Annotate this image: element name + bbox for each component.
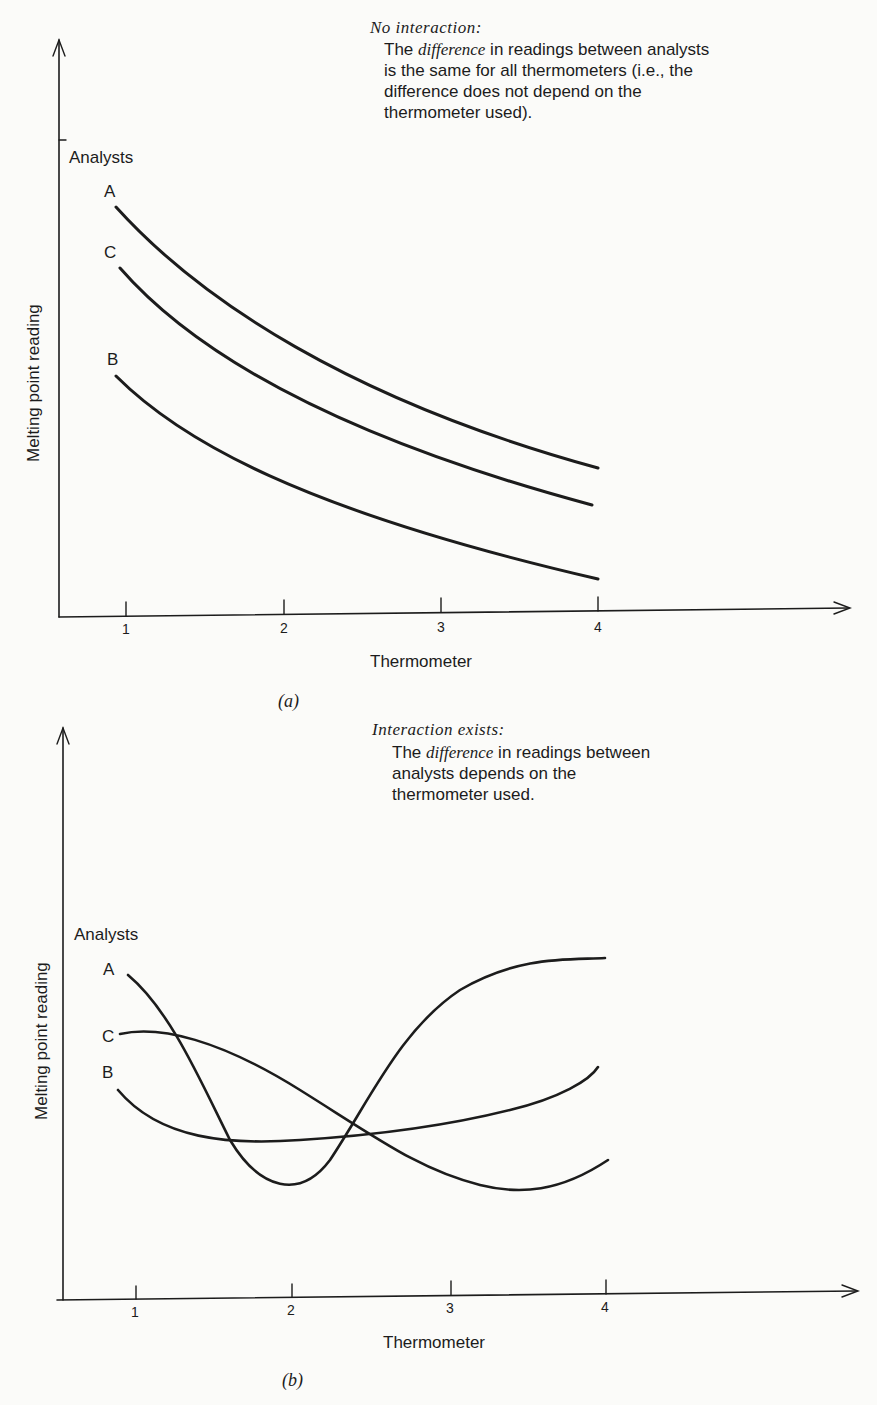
panel-a-tick-label-1: 1: [122, 621, 130, 637]
curve-b-analyst-a: [128, 958, 605, 1185]
panel-a-series-label-a: A: [104, 182, 115, 202]
panel-a-desc-line-4: thermometer used).: [384, 102, 709, 123]
panel-a-desc-line-2: is the same for all thermometers (i.e., …: [384, 60, 709, 81]
panel-b-desc-line-3: thermometer used.: [392, 784, 650, 805]
curve-a-analyst-c: [120, 268, 592, 505]
panel-b-desc-line-2: analysts depends on the: [392, 763, 650, 784]
panel-a-desc-line-3: difference does not depend on the: [384, 81, 709, 102]
curve-b-analyst-b: [118, 1067, 598, 1142]
figure-canvas: [0, 0, 877, 1405]
panel-b-tick-label-1: 1: [131, 1304, 139, 1320]
panel-a-heading: No interaction:: [370, 18, 482, 38]
panel-a-desc-line-1: The difference in readings between analy…: [384, 39, 709, 60]
panel-b-series-label-c: C: [102, 1027, 114, 1047]
panel-a-series-label-b: B: [107, 350, 118, 370]
panel-b-x-axis-label: Thermometer: [383, 1333, 485, 1353]
panel-a-description: The difference in readings between analy…: [384, 39, 709, 123]
panel-a-tick-label-4: 4: [594, 619, 602, 635]
panel-b-tick-label-2: 2: [287, 1302, 295, 1318]
panel-a-y-axis-label: Melting point reading: [24, 304, 44, 462]
panel-a-series-label-c: C: [104, 243, 116, 263]
panel-b-series-label-a: A: [103, 960, 114, 980]
panel-a-legend-title: Analysts: [69, 148, 133, 168]
panel-a-tick-label-2: 2: [280, 620, 288, 636]
panel-b-series-label-b: B: [102, 1063, 113, 1083]
panel-b-caption: (b): [282, 1370, 303, 1391]
curve-a-analyst-a: [116, 207, 598, 468]
panel-b-desc-line-1: The difference in readings between: [392, 742, 650, 763]
panel-b-tick-label-3: 3: [446, 1300, 454, 1316]
panel-b-description: The difference in readings between analy…: [392, 742, 650, 805]
curve-a-analyst-b: [116, 376, 598, 579]
panel-a-caption: (a): [278, 691, 299, 712]
curve-b-analyst-c: [120, 1032, 608, 1191]
x-axis-a: [59, 608, 848, 617]
panel-b-axes: [57, 728, 858, 1300]
panel-a-x-axis-label: Thermometer: [370, 652, 472, 672]
panel-b-y-axis-label: Melting point reading: [32, 962, 52, 1120]
panel-b-heading: Interaction exists:: [372, 720, 505, 740]
panel-a-tick-label-3: 3: [437, 619, 445, 635]
panel-b-tick-label-4: 4: [601, 1299, 609, 1315]
panel-b-legend-title: Analysts: [74, 925, 138, 945]
panel-a-axes: [53, 40, 850, 617]
x-axis-b: [57, 1291, 856, 1300]
